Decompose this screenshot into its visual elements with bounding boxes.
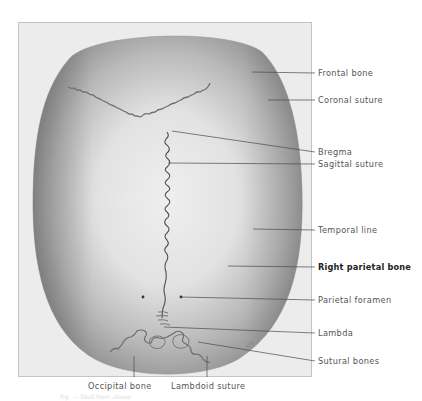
label-frontal-bone: Frontal bone xyxy=(318,68,373,78)
label-lambda: Lambda xyxy=(318,328,353,338)
skull-illustration: YH xyxy=(0,0,422,401)
label-lambdoid-suture: Lambdoid suture xyxy=(171,381,245,391)
label-parietal-foramen: Parietal foramen xyxy=(318,295,391,305)
label-bregma: Bregma xyxy=(318,147,352,157)
label-temporal-line: Temporal line xyxy=(318,225,377,235)
label-occipital-bone: Occipital bone xyxy=(88,381,152,391)
parietal-foramen-left xyxy=(142,296,145,299)
label-sutural-bones: Sutural bones xyxy=(318,356,379,366)
figure-caption: Fig. — Skull from above xyxy=(60,393,360,401)
label-coronal-suture: Coronal suture xyxy=(318,95,383,105)
label-sagittal-suture: Sagittal suture xyxy=(318,159,383,169)
label-right-parietal-bone: Right parietal bone xyxy=(318,262,411,272)
